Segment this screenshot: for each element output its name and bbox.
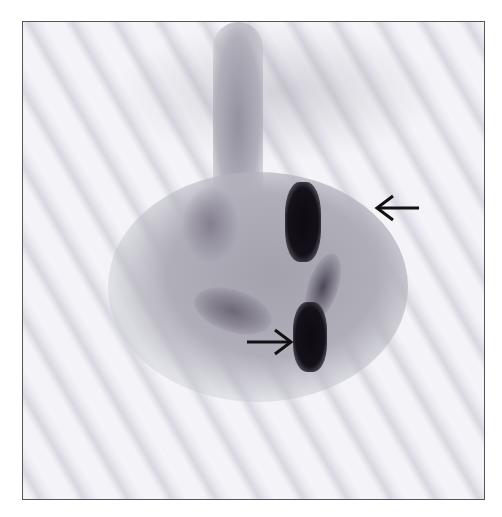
upper-soft-tissue (113, 22, 443, 162)
scan-image (22, 21, 485, 500)
left-pelvic-uptake (183, 187, 238, 262)
arrow-right-icon (245, 328, 295, 356)
lower-focal-uptake (293, 302, 327, 372)
pelvic-soft-tissue (108, 172, 408, 402)
arrow-left-icon (373, 194, 423, 222)
upper-focal-uptake (285, 182, 321, 262)
